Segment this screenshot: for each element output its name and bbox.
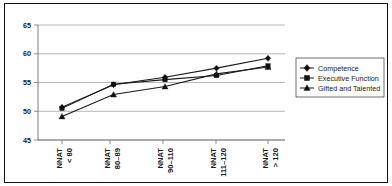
data-series-layer: [59, 55, 271, 119]
x-tick-label-4-line1: NNAT: [261, 148, 270, 169]
x-tick-label-3-line2: 111–120: [219, 148, 228, 177]
x-tick-labels: NNAT < 80 NNAT 80–89 NNAT 90–110 NNAT 11…: [55, 148, 280, 177]
x-tick-label-0-line1: NNAT: [55, 148, 64, 169]
legend-label-competence: Competence: [318, 64, 359, 73]
gridlines: [38, 25, 285, 140]
square-icon: [304, 75, 309, 80]
plot-wrapper: 65 60 55 50 45 NNAT < 80 NNAT 80–89 NNAT: [0, 0, 392, 186]
data-point: [163, 77, 167, 81]
x-tick-label-4: NNAT > 120: [261, 148, 280, 169]
chart-figure: 65 60 55 50 45 NNAT < 80 NNAT 80–89 NNAT: [0, 0, 392, 186]
x-tick-label-0-line2: < 80: [65, 148, 74, 163]
data-point: [59, 114, 65, 119]
x-tick-label-2-line2: 90–110: [166, 148, 175, 173]
y-tick-label-65: 65: [23, 21, 31, 30]
data-point: [214, 65, 220, 71]
x-tick-label-1-line1: NNAT: [103, 148, 112, 169]
y-tick-label-50: 50: [23, 107, 31, 116]
legend: Competence Executive Function Gifted and…: [296, 58, 384, 97]
x-tick-label-4-line2: > 120: [271, 148, 280, 167]
legend-label-executive-function: Executive Function: [318, 74, 379, 83]
y-tick-label-55: 55: [23, 78, 31, 87]
data-point: [111, 82, 115, 86]
y-tick-label-60: 60: [23, 49, 31, 58]
x-tick-label-3-line1: NNAT: [209, 148, 218, 169]
data-point: [265, 55, 271, 61]
x-tick-label-1: NNAT 80–89: [103, 148, 122, 169]
data-point: [60, 106, 64, 110]
y-tick-label-45: 45: [23, 136, 31, 145]
series-gifted-and-talented: [59, 64, 271, 119]
x-tick-label-0: NNAT < 80: [55, 148, 74, 169]
x-tick-label-3: NNAT 111–120: [209, 148, 228, 177]
axes: [34, 25, 285, 144]
x-tick-label-1-line2: 80–89: [113, 148, 122, 169]
x-tick-label-2: NNAT 90–110: [156, 148, 175, 173]
x-tick-label-2-line1: NNAT: [156, 148, 165, 169]
legend-label-gifted-and-talented: Gifted and Talented: [318, 84, 380, 93]
y-tick-labels: 65 60 55 50 45: [23, 21, 31, 145]
line-chart: 65 60 55 50 45 NNAT < 80 NNAT 80–89 NNAT: [0, 0, 392, 186]
